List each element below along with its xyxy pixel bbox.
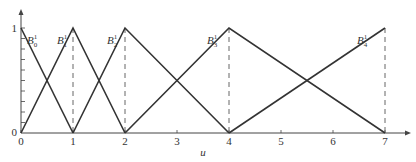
- x-tick-label: 2: [122, 135, 128, 147]
- series-label: B10: [27, 33, 38, 49]
- y-tick-label: 0: [12, 126, 18, 138]
- y-axis-arrow-icon: [19, 9, 24, 15]
- dashed-knot-lines: [73, 28, 385, 133]
- x-tick-label: 5: [278, 135, 284, 147]
- series-label: B13: [207, 33, 218, 49]
- x-tick-label: 0: [18, 135, 24, 147]
- y-tick-label: 1: [12, 22, 18, 34]
- basis-curve: [125, 28, 385, 133]
- x-tick-label: 6: [330, 135, 336, 147]
- x-axis-arrow-icon: [405, 131, 411, 136]
- basis-curve: [73, 28, 229, 133]
- basis-curves: [21, 28, 385, 133]
- series-label: B11: [57, 33, 68, 49]
- x-tick-label: 1: [70, 135, 76, 147]
- series-label: B12: [107, 33, 118, 49]
- x-tick-label: 3: [174, 135, 180, 147]
- x-tick-label: 4: [226, 135, 232, 147]
- series-labels: B10B11B12B13B14: [27, 33, 368, 49]
- x-axis-label: u: [200, 146, 206, 158]
- axes: [19, 9, 412, 136]
- bspline-basis-chart: 0123456701u B10B11B12B13B14: [0, 0, 416, 162]
- axis-labels: 0123456701u: [12, 22, 389, 158]
- x-tick-label: 7: [382, 135, 388, 147]
